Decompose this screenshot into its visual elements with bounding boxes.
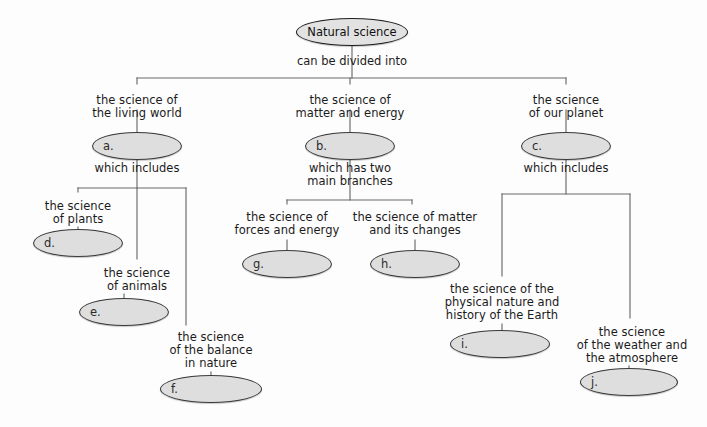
ellipse-c-key: c. bbox=[532, 139, 542, 153]
ellipse-h-key: h. bbox=[381, 257, 392, 271]
label-physical-earth: the science of the physical nature and h… bbox=[445, 283, 560, 323]
ellipse-b-key: b. bbox=[316, 139, 327, 153]
ellipse-h[interactable]: h. bbox=[370, 250, 460, 278]
ellipse-b[interactable]: b. bbox=[305, 132, 395, 160]
ellipse-e[interactable]: e. bbox=[79, 298, 169, 326]
root-node-natural-science: Natural science bbox=[296, 18, 408, 46]
label-animals: the science of animals bbox=[104, 267, 170, 293]
ellipse-a-key: a. bbox=[103, 139, 114, 153]
concept-map-diagram: Natural sciencecan be divided intowhich … bbox=[0, 0, 707, 427]
ellipse-a[interactable]: a. bbox=[92, 132, 182, 160]
ellipse-i[interactable]: i. bbox=[450, 330, 550, 358]
label-living-world: the science of the living world bbox=[92, 94, 182, 120]
ellipse-j[interactable]: j. bbox=[580, 368, 678, 396]
label-matter-energy: the science of matter and energy bbox=[296, 94, 405, 120]
living-world-connector: which includes bbox=[95, 162, 180, 175]
ellipse-f-key: f. bbox=[171, 382, 178, 396]
ellipse-d-key: d. bbox=[44, 236, 55, 250]
ellipse-i-key: i. bbox=[461, 337, 468, 351]
label-weather: the science of the weather and the atmos… bbox=[577, 326, 688, 366]
ellipse-c[interactable]: c. bbox=[521, 132, 611, 160]
label-balance: the science of the balance in nature bbox=[169, 331, 252, 371]
ellipse-d[interactable]: d. bbox=[33, 229, 123, 257]
our-planet-connector: which includes bbox=[524, 162, 609, 175]
label-plants: the science of plants bbox=[45, 200, 111, 226]
ellipse-g[interactable]: g. bbox=[242, 250, 332, 278]
ellipse-f[interactable]: f. bbox=[160, 375, 262, 403]
ellipse-g-key: g. bbox=[253, 257, 264, 271]
matter-energy-connector: which has two main branches bbox=[307, 162, 392, 188]
ellipse-e-key: e. bbox=[90, 305, 101, 319]
label-forces-energy: the science of forces and energy bbox=[235, 211, 340, 237]
root-node-label: Natural science bbox=[307, 25, 396, 39]
root-connector: can be divided into bbox=[297, 55, 407, 68]
label-our-planet: the science of our planet bbox=[529, 94, 604, 120]
label-matter-changes: the science of matter and its changes bbox=[353, 211, 477, 237]
ellipse-j-key: j. bbox=[591, 375, 598, 389]
